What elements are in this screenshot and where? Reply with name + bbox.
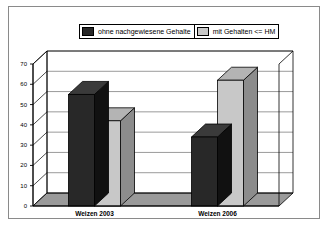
bar-weizen-2006-series-0 [192, 124, 232, 206]
plot-left-wall [33, 51, 47, 206]
bar-front-face [192, 137, 218, 206]
chart-container: ohne nachgewiesene Gehalte mit Gehalten … [8, 6, 320, 219]
y-tick-label: 50 [13, 102, 27, 108]
y-tick-label: 20 [13, 162, 27, 168]
bar-side-face [121, 108, 135, 206]
chart-svg [9, 7, 321, 220]
bar-side-face [95, 81, 109, 206]
bar-side-face [244, 67, 258, 206]
x-category-label: Weizen 2003 [55, 210, 135, 218]
y-tick-label: 0 [13, 203, 27, 209]
bar-side-face [218, 124, 232, 206]
y-tick-label: 70 [13, 61, 27, 67]
x-category-label: Weizen 2006 [178, 210, 258, 218]
y-tick-label: 10 [13, 183, 27, 189]
bar-front-face [69, 94, 95, 206]
plot-area [9, 7, 319, 218]
y-tick-label: 30 [13, 142, 27, 148]
bar-weizen-2003-series-0 [69, 81, 109, 206]
y-tick-label: 40 [13, 122, 27, 128]
y-tick-label: 60 [13, 81, 27, 87]
